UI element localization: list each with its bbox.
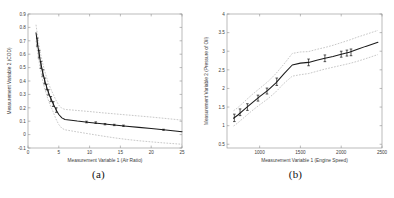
y-axis-title: Measurement Variable 2 (COD) — [7, 47, 12, 114]
x-tick-label: 0 — [27, 150, 30, 155]
plot-frame — [28, 14, 182, 148]
y-tick-label: 0 — [23, 132, 26, 137]
confidence-band-curve — [36, 25, 182, 120]
y-tick-label: 0.4 — [19, 79, 26, 84]
panel-a-caption: (a) — [0, 168, 197, 180]
x-tick-label: 1000 — [255, 150, 266, 155]
confidence-band-curve — [36, 41, 182, 144]
mean-curve — [36, 33, 182, 132]
x-axis-title: Measurement Variable 1 (Engine Speed) — [261, 158, 348, 163]
y-tick-label: 1.5 — [218, 105, 225, 110]
figure-container: 0510152025-0.100.10.20.30.40.50.60.70.80… — [0, 0, 394, 198]
y-tick-label: 0.5 — [218, 142, 225, 147]
x-tick-label: 2500 — [377, 150, 388, 155]
confidence-band-curve — [234, 30, 378, 110]
panel-b-caption: (b) — [197, 168, 394, 180]
y-tick-label: 4 — [222, 12, 225, 17]
y-tick-label: 0.5 — [19, 65, 26, 70]
mean-curve — [234, 42, 378, 118]
y-tick-label: 0.9 — [19, 12, 26, 17]
y-tick-label: 0.6 — [19, 52, 26, 57]
x-tick-label: 10 — [87, 150, 93, 155]
panel-b: 10001500200025000.511.522.533.54Measurem… — [197, 0, 394, 198]
panel-a-svg: 0510152025-0.100.10.20.30.40.50.60.70.80… — [0, 0, 197, 170]
panel-b-svg: 10001500200025000.511.522.533.54Measurem… — [197, 0, 394, 170]
x-tick-label: 1500 — [295, 150, 306, 155]
y-tick-label: 0.1 — [19, 119, 26, 124]
x-tick-label: 20 — [149, 150, 155, 155]
panel-b-plot: 10001500200025000.511.522.533.54Measurem… — [197, 0, 394, 170]
y-tick-label: 2 — [222, 86, 225, 91]
plot-frame — [227, 14, 382, 148]
y-tick-label: 0.3 — [19, 92, 26, 97]
x-tick-label: 2000 — [336, 150, 347, 155]
y-tick-label: 3 — [222, 49, 225, 54]
y-tick-label: 1 — [222, 123, 225, 128]
y-tick-label: 3.5 — [218, 30, 225, 35]
y-tick-label: 0.8 — [19, 25, 26, 30]
panel-a: 0510152025-0.100.10.20.30.40.50.60.70.80… — [0, 0, 197, 198]
x-tick-label: 15 — [118, 150, 124, 155]
x-axis-title: Measurement Variable 1 (Air Ratio) — [68, 158, 143, 163]
error-bar — [275, 78, 278, 85]
y-tick-label: 2.5 — [218, 68, 225, 73]
x-tick-label: 5 — [58, 150, 61, 155]
y-tick-label: 0.7 — [19, 39, 26, 44]
y-axis-title: Measurement Variable 2 (Pressure of Oil) — [204, 37, 209, 126]
confidence-band-curve — [234, 55, 378, 126]
x-tick-label: 25 — [179, 150, 185, 155]
panel-a-plot: 0510152025-0.100.10.20.30.40.50.60.70.80… — [0, 0, 197, 170]
y-tick-label: -0.1 — [18, 146, 26, 151]
y-tick-label: 0.2 — [19, 106, 26, 111]
